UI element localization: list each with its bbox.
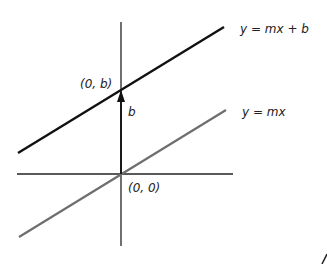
label-origin-point: (0, 0) [128, 181, 160, 195]
diagram-svg: y = mx + b y = mx (0, b) (0, 0) b [0, 0, 327, 264]
page-corner-curl [322, 254, 327, 264]
diagram-canvas: y = mx + b y = mx (0, b) (0, 0) b [0, 0, 327, 264]
label-intercept-point: (0, b) [80, 77, 112, 91]
label-offset-b: b [128, 105, 136, 119]
label-line-shifted: y = mx + b [239, 22, 309, 36]
label-line-origin: y = mx [241, 105, 286, 119]
